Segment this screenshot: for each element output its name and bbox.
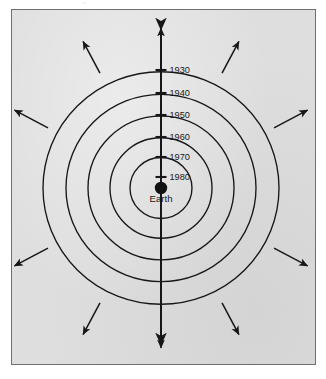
arrow-ene [274,110,308,128]
year-label-1930: 1930 [170,65,190,75]
arrow-sse [222,303,239,335]
earth-marker: Earth [150,182,173,204]
year-label-1960: 1960 [170,132,190,142]
year-label-1940: 1940 [170,88,190,98]
expanding-wavefront-diagram: 193019401950196019701980 Earth [0,0,326,379]
figure-root: · = · 193019401950196019701980 Earth [0,0,326,379]
arrow-wnw [14,110,48,128]
arrow-nnw [83,41,100,73]
year-label-1950: 1950 [170,110,190,120]
year-label-1980: 1980 [170,172,190,182]
arrow-wsw [14,248,48,266]
arrow-ssw [83,303,100,335]
year-label-1970: 1970 [170,152,190,162]
earth-label: Earth [150,193,173,204]
arrow-nne [222,41,239,73]
arrow-ese [274,248,308,266]
